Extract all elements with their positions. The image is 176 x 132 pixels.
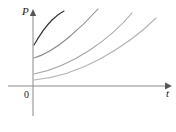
curve-series-group	[34, 9, 156, 80]
plot-canvas	[0, 0, 176, 132]
p-t-graph-figure: P t 0	[0, 0, 176, 132]
p-axis-label: P	[22, 6, 29, 17]
origin-label: 0	[24, 90, 29, 100]
p-axis-group	[30, 9, 36, 116]
curve-1	[34, 11, 64, 45]
curve-3	[34, 13, 132, 74]
p-axis-arrow-icon	[30, 9, 36, 16]
t-axis-label: t	[166, 88, 169, 99]
